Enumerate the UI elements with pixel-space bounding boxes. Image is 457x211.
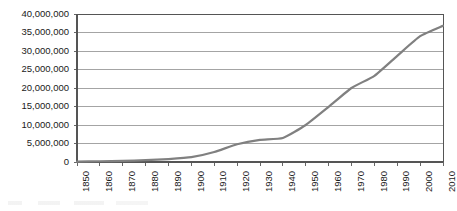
page-scan-artifact [8,201,158,205]
